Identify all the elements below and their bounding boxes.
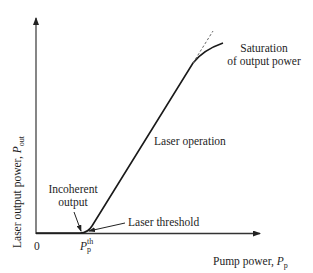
y-axis-label-text: Laser output power,: [11, 153, 23, 248]
laser-operation-annotation: Laser operation: [154, 135, 226, 148]
y-axis-label: Laser output power, Pout: [11, 136, 26, 248]
threshold-symbol: P: [80, 240, 87, 252]
saturation-line1: Saturation: [216, 42, 312, 55]
x-axis-symbol: P: [277, 255, 284, 267]
x-axis-label: Pump power, Pp: [213, 255, 288, 272]
y-axis-subscript: out: [17, 136, 26, 146]
saturation-annotation: Saturation of output power: [216, 42, 312, 68]
x-axis-subscript: p: [284, 261, 288, 270]
x-axis-origin-label: 0: [34, 240, 40, 253]
laser-threshold-annotation: Laser threshold: [128, 216, 199, 229]
linear-extrapolation-dashed: [193, 31, 213, 63]
laser-threshold-arrow: [89, 223, 125, 231]
saturation-line2: of output power: [216, 55, 312, 68]
threshold-subscript: p: [87, 246, 93, 254]
laser-characteristic-diagram: Laser output power, Pout 0 Pthp Pump pow…: [0, 0, 313, 273]
threshold-tick-label: Pthp: [80, 238, 93, 254]
incoherent-output-annotation: Incoherent output: [38, 183, 108, 209]
incoherent-output-arrow: [74, 212, 81, 231]
x-axis-label-text: Pump power,: [213, 255, 277, 267]
incoherent-line2: output: [38, 196, 108, 209]
incoherent-line1: Incoherent: [38, 183, 108, 196]
y-axis-symbol: P: [11, 146, 23, 153]
